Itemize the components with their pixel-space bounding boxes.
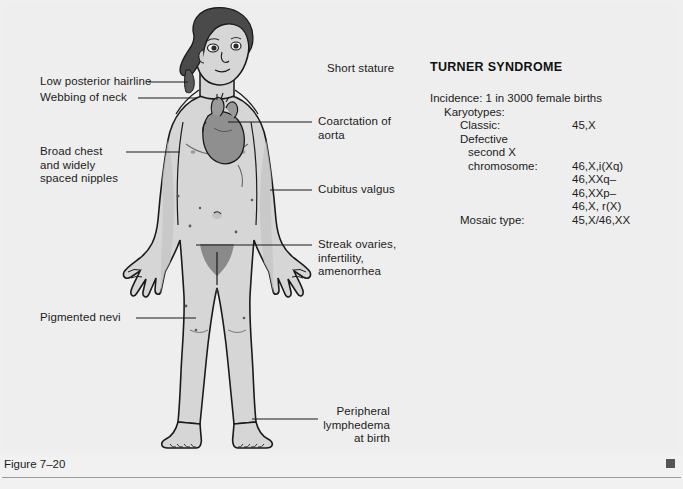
label-coarctation-of-aorta: Coarctation of aorta — [318, 115, 410, 142]
label-pigmented-nevi: Pigmented nevi — [40, 311, 121, 325]
figure-caption: Figure 7–20 — [4, 458, 65, 470]
footer-divider — [2, 477, 681, 478]
panel-row: 46,X, r(X) — [430, 200, 660, 214]
panel-incidence: Incidence: 1 in 3000 female births — [430, 92, 602, 104]
foot-left — [162, 422, 202, 448]
heart-body — [203, 111, 245, 163]
square-marker-icon — [666, 459, 675, 468]
panel-title: TURNER SYNDROME — [430, 60, 660, 74]
label-webbing-of-neck: Webbing of neck — [40, 91, 127, 105]
panel-row-value: 45,X — [572, 119, 596, 131]
panel-row: second X — [430, 146, 660, 160]
panel-row: 46,XXq– — [430, 173, 660, 187]
panel-row: Classic: 45,X — [430, 119, 660, 133]
panel-row-value: 46,XXq– — [572, 173, 616, 185]
figure-page: Low posterior hairline Webbing of neck B… — [0, 0, 683, 489]
label-peripheral-lymphedema: Peripheral lymphedema at birth — [312, 405, 390, 446]
illustration-plate: Low posterior hairline Webbing of neck B… — [0, 0, 683, 455]
panel-row: chromosome: 46,X,i(Xq) — [430, 160, 660, 174]
panel-row-value: 45,X/46,XX — [572, 214, 630, 226]
panel-karyotypes-heading: Karyotypes: — [430, 106, 505, 118]
nipple-left — [191, 150, 196, 154]
panel-row-key: Classic: — [430, 119, 500, 131]
panel-row-key: second X — [430, 146, 516, 158]
feet — [162, 422, 273, 448]
aortic-arch — [211, 97, 224, 116]
panel-row: Defective — [430, 133, 660, 147]
label-short-stature: Short stature — [327, 62, 394, 76]
panel-row-value: 46,XXp– — [572, 187, 616, 199]
panel-karyotypes-heading-row: Karyotypes: — [430, 106, 660, 120]
panel-incidence-row: Incidence: 1 in 3000 female births — [430, 92, 660, 106]
label-low-posterior-hairline: Low posterior hairline — [40, 75, 152, 89]
head — [180, 8, 253, 99]
panel-row-key: Mosaic type: — [430, 214, 525, 226]
panel-row-key: chromosome: — [430, 160, 538, 172]
label-broad-chest: Broad chest and widely spaced nipples — [40, 145, 118, 186]
panel-row: Mosaic type: 45,X/46,XX — [430, 214, 660, 228]
turner-syndrome-panel: TURNER SYNDROME Incidence: 1 in 3000 fem… — [430, 60, 660, 227]
panel-row: 46,XXp– — [430, 187, 660, 201]
label-cubitus-valgus: Cubitus valgus — [318, 183, 395, 197]
label-streak-ovaries: Streak ovaries, infertility, amenorrhea — [318, 238, 414, 279]
foot-right — [233, 422, 273, 448]
panel-row-value: 46,X, r(X) — [572, 200, 621, 212]
panel-row-value: 46,X,i(Xq) — [572, 160, 623, 172]
panel-row-key: Defective — [430, 133, 508, 145]
